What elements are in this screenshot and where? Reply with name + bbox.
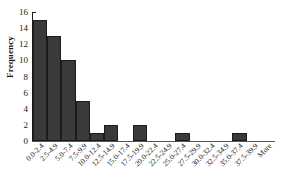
histogram-bar: [175, 133, 189, 141]
y-tick-label: 12: [19, 40, 28, 49]
histogram-chart: Frequency 0246810121416 0.0-2.42.5-4.95.…: [0, 0, 284, 193]
bar-series: [33, 12, 275, 141]
x-axis-tick-labels: 0.0-2.42.5-4.95.0-7.47.5-9.910.0-12.412.…: [32, 142, 284, 193]
y-tick-label: 4: [24, 104, 29, 113]
histogram-bar: [232, 133, 246, 141]
y-tick-label: 2: [24, 120, 29, 129]
y-tick-label: 10: [19, 56, 28, 65]
histogram-bar: [90, 133, 104, 141]
histogram-bar: [61, 60, 75, 141]
y-tick-label: 8: [24, 72, 29, 81]
histogram-bar: [33, 20, 47, 141]
histogram-bar: [76, 101, 90, 141]
y-tick-label: 0: [24, 137, 29, 146]
y-tick-label: 14: [19, 24, 28, 33]
histogram-bar: [104, 125, 118, 141]
y-tick-label: 16: [19, 8, 28, 17]
plot-area: [32, 12, 275, 141]
histogram-bar: [133, 125, 147, 141]
histogram-bar: [47, 36, 61, 141]
y-tick-label: 6: [24, 88, 29, 97]
